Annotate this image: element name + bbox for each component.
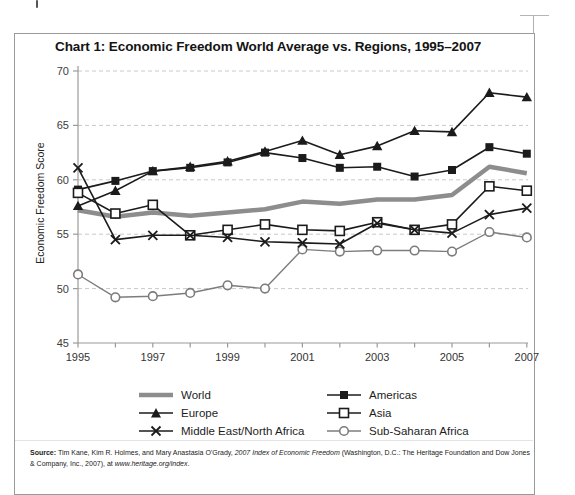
y-tick-label: 55 — [57, 228, 69, 240]
marker-open-circle — [340, 427, 349, 436]
x-tick-label: 1997 — [141, 351, 165, 363]
x-tick-label: 1999 — [215, 351, 239, 363]
marker-open-circle — [223, 281, 232, 290]
x-tick-label: 2005 — [440, 351, 464, 363]
legend-item-sub-saharan-africa: Sub-Saharan Africa — [326, 424, 469, 438]
marker-open-circle — [448, 247, 457, 256]
marker-open-circle — [261, 284, 270, 293]
x-tick-label: 2001 — [290, 351, 314, 363]
source-text-segment: Tim Kane, Kim R. Holmes, and Mary Anasta… — [56, 449, 235, 456]
marker-open-square — [261, 220, 270, 229]
marker-filled-triangle — [110, 185, 120, 194]
footer-divider-line — [15, 440, 533, 441]
marker-filled-square — [149, 167, 157, 175]
y-tick-label: 60 — [57, 174, 69, 186]
marker-open-circle — [74, 270, 83, 279]
legend-column-right: AmericasAsiaSub-Saharan Africa — [326, 388, 469, 438]
marker-filled-square — [485, 143, 493, 151]
y-tick-label: 70 — [57, 65, 69, 77]
source-text-segment: www.heritage.org/index — [115, 460, 188, 467]
legend-swatch — [326, 406, 362, 420]
marker-open-circle — [373, 246, 382, 255]
legend-label: Asia — [369, 407, 391, 419]
marker-filled-square — [186, 164, 194, 172]
marker-open-square — [522, 186, 531, 195]
marker-filled-triangle — [73, 201, 83, 210]
legend-label: Sub-Saharan Africa — [369, 425, 469, 437]
marker-filled-square — [373, 163, 381, 171]
marker-filled-triangle — [297, 135, 307, 144]
marker-open-square — [111, 209, 120, 218]
legend-swatch — [138, 424, 174, 438]
marker-open-square — [223, 225, 232, 234]
marker-open-square — [148, 200, 157, 209]
marker-open-square — [448, 220, 457, 229]
marker-filled-triangle — [372, 141, 382, 150]
marker-open-square — [298, 225, 307, 234]
x-tick-label: 2007 — [515, 351, 539, 363]
legend-item-world: World — [138, 388, 304, 402]
legend-item-europe: Europe — [138, 406, 304, 420]
source-text-segment: Source: — [30, 449, 56, 456]
marker-open-square — [74, 188, 83, 197]
marker-open-circle — [485, 228, 494, 237]
marker-open-square — [485, 182, 494, 191]
marker-filled-square — [261, 149, 269, 157]
marker-open-square — [340, 409, 349, 418]
y-tick-label: 65 — [57, 119, 69, 131]
marker-filled-square — [340, 391, 348, 399]
source-text-segment: 2007 Index of Economic Freedom — [235, 449, 340, 456]
legend-swatch — [138, 388, 174, 402]
x-tick-label: 1995 — [66, 351, 90, 363]
marker-filled-triangle — [484, 88, 494, 97]
marker-filled-square — [411, 173, 419, 181]
x-tick-label: 2003 — [365, 351, 389, 363]
legend-item-americas: Americas — [326, 388, 469, 402]
marker-open-circle — [336, 247, 345, 256]
legend-swatch — [326, 424, 362, 438]
series-line-americas — [78, 147, 527, 189]
marker-open-circle — [149, 292, 158, 301]
marker-open-circle — [410, 246, 419, 255]
legend-label: Americas — [369, 389, 417, 401]
legend-column-left: WorldEuropeMiddle East/North Africa — [138, 388, 304, 438]
source-text-segment: . — [187, 460, 189, 467]
marker-filled-square — [448, 166, 456, 174]
marker-open-circle — [111, 293, 120, 302]
marker-open-circle — [186, 289, 195, 298]
legend-label: Middle East/North Africa — [181, 425, 304, 437]
legend-item-asia: Asia — [326, 406, 469, 420]
marker-filled-square — [224, 158, 232, 166]
marker-filled-square — [523, 150, 531, 158]
marker-filled-square — [336, 164, 344, 172]
legend-swatch — [326, 388, 362, 402]
marker-open-square — [335, 226, 344, 235]
marker-open-circle — [523, 233, 532, 242]
legend-item-middle-east-north-africa: Middle East/North Africa — [138, 424, 304, 438]
y-tick-label: 45 — [57, 337, 69, 349]
legend-label: World — [181, 389, 211, 401]
legend-label: Europe — [181, 407, 218, 419]
source-note: Source: Tim Kane, Kim R. Holmes, and Mar… — [30, 447, 530, 469]
marker-filled-square — [111, 177, 119, 185]
marker-filled-square — [298, 154, 306, 162]
legend-swatch — [138, 406, 174, 420]
y-tick-label: 50 — [57, 283, 69, 295]
